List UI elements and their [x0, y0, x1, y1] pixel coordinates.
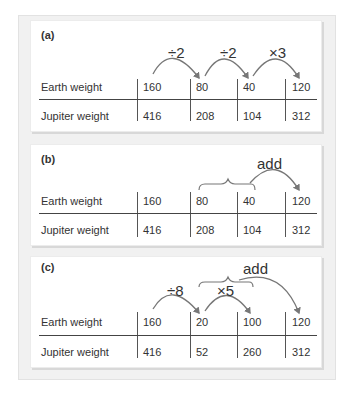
- column-divider: [190, 79, 191, 121]
- cell: 100: [243, 316, 261, 328]
- cell: 80: [196, 81, 208, 93]
- row-divider: [39, 99, 317, 100]
- cell: 40: [243, 81, 255, 93]
- cell: 160: [143, 81, 161, 93]
- cell: 208: [196, 224, 214, 236]
- panel-c: (c) ÷8 ×5 add Earth weight Jupiter weigh…: [30, 256, 322, 368]
- cell: 312: [292, 346, 310, 358]
- cell: 52: [196, 346, 208, 358]
- row-label-earth: Earth weight: [41, 316, 102, 328]
- cell: 80: [196, 195, 208, 207]
- row-label-jupiter: Jupiter weight: [41, 224, 109, 236]
- column-divider: [285, 192, 286, 237]
- cell: 160: [143, 195, 161, 207]
- row-label-jupiter: Jupiter weight: [41, 346, 109, 358]
- column-divider: [137, 79, 138, 121]
- column-divider: [285, 79, 286, 121]
- operation-divide-2: ÷2: [220, 44, 237, 61]
- operation-divide-8: ÷8: [167, 282, 184, 299]
- row-label-jupiter: Jupiter weight: [41, 110, 109, 122]
- figure-frame: (a) ÷2 ÷2 ×3 Earth weight Jupiter weight…: [18, 15, 336, 380]
- cell: 120: [292, 195, 310, 207]
- operation-divide-2: ÷2: [168, 44, 185, 61]
- row-divider: [39, 213, 317, 214]
- operation-add: add: [243, 260, 268, 277]
- cell: 208: [196, 110, 214, 122]
- cell: 416: [143, 346, 161, 358]
- cell: 104: [243, 110, 261, 122]
- operation-add: add: [257, 155, 282, 172]
- operation-times-5: ×5: [217, 282, 234, 299]
- panel-a: (a) ÷2 ÷2 ×3 Earth weight Jupiter weight…: [30, 20, 322, 132]
- row-label-earth: Earth weight: [41, 81, 102, 93]
- row-divider: [39, 335, 317, 336]
- cell: 260: [243, 346, 261, 358]
- column-divider: [237, 79, 238, 121]
- operation-times-3: ×3: [269, 44, 286, 61]
- cell: 20: [196, 316, 208, 328]
- column-divider: [237, 192, 238, 237]
- cell: 416: [143, 110, 161, 122]
- cell: 160: [143, 316, 161, 328]
- cell: 40: [243, 195, 255, 207]
- cell: 104: [243, 224, 261, 236]
- cell: 120: [292, 316, 310, 328]
- cell: 312: [292, 110, 310, 122]
- column-divider: [190, 192, 191, 237]
- cell: 312: [292, 224, 310, 236]
- panel-b: (b) add Earth weight Jupiter weight 160 …: [30, 144, 322, 246]
- cell: 120: [292, 81, 310, 93]
- row-label-earth: Earth weight: [41, 195, 102, 207]
- column-divider: [137, 192, 138, 237]
- cell: 416: [143, 224, 161, 236]
